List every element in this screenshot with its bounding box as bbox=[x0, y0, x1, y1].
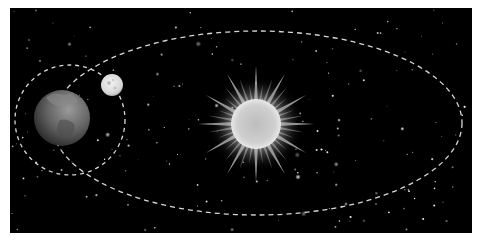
star bbox=[412, 69, 413, 70]
star bbox=[198, 119, 200, 121]
star bbox=[182, 84, 183, 85]
star bbox=[216, 46, 218, 48]
star bbox=[153, 96, 154, 97]
star bbox=[335, 226, 337, 228]
star bbox=[441, 136, 442, 137]
moon-disc bbox=[101, 74, 123, 96]
star bbox=[405, 52, 406, 53]
star bbox=[301, 41, 303, 43]
star bbox=[317, 130, 319, 132]
star bbox=[396, 70, 397, 71]
star bbox=[464, 106, 466, 108]
star bbox=[363, 79, 365, 81]
star bbox=[169, 163, 170, 164]
star bbox=[23, 178, 25, 180]
star bbox=[355, 29, 356, 30]
star bbox=[39, 60, 41, 62]
star bbox=[160, 53, 164, 57]
star bbox=[332, 95, 334, 97]
star bbox=[334, 183, 338, 187]
star bbox=[178, 85, 180, 87]
star bbox=[13, 11, 14, 12]
sun-core bbox=[231, 99, 281, 149]
star bbox=[404, 189, 405, 190]
star bbox=[240, 63, 242, 65]
star bbox=[105, 132, 110, 137]
star bbox=[362, 219, 366, 223]
star bbox=[86, 196, 88, 198]
star bbox=[295, 174, 301, 180]
star bbox=[407, 154, 408, 155]
star bbox=[435, 181, 436, 182]
star bbox=[35, 9, 37, 11]
star bbox=[338, 135, 340, 137]
star bbox=[383, 140, 384, 141]
star bbox=[326, 62, 327, 63]
star bbox=[316, 172, 317, 173]
star bbox=[120, 155, 121, 156]
moon bbox=[101, 74, 123, 96]
star bbox=[294, 169, 296, 171]
star bbox=[387, 21, 389, 23]
star bbox=[189, 119, 190, 120]
star bbox=[442, 23, 443, 24]
star bbox=[24, 195, 25, 196]
star bbox=[350, 216, 352, 218]
star bbox=[442, 202, 443, 203]
star bbox=[337, 127, 339, 129]
star bbox=[79, 95, 80, 96]
star bbox=[359, 69, 363, 73]
star bbox=[434, 188, 436, 190]
star bbox=[155, 72, 159, 76]
star bbox=[350, 221, 351, 222]
star bbox=[25, 113, 26, 114]
star bbox=[190, 12, 191, 13]
star bbox=[205, 158, 206, 159]
star bbox=[154, 227, 156, 229]
star bbox=[212, 53, 214, 55]
star bbox=[375, 191, 379, 195]
star bbox=[256, 181, 258, 183]
star bbox=[348, 83, 349, 84]
star bbox=[17, 229, 19, 231]
star bbox=[164, 127, 165, 128]
star bbox=[74, 36, 75, 37]
star bbox=[433, 205, 435, 207]
star bbox=[16, 143, 17, 144]
star bbox=[328, 73, 329, 74]
star bbox=[231, 58, 234, 61]
star bbox=[41, 170, 42, 171]
star bbox=[339, 220, 341, 222]
star bbox=[267, 180, 268, 181]
star bbox=[387, 106, 388, 107]
star bbox=[344, 202, 348, 206]
star bbox=[147, 104, 149, 106]
star bbox=[61, 169, 63, 171]
star bbox=[175, 27, 177, 29]
star bbox=[127, 204, 129, 206]
star bbox=[431, 158, 433, 160]
star bbox=[421, 36, 422, 37]
star bbox=[316, 149, 318, 151]
star bbox=[87, 99, 88, 100]
star bbox=[332, 48, 334, 50]
star bbox=[211, 38, 212, 39]
star bbox=[125, 170, 126, 171]
star bbox=[26, 47, 28, 49]
star bbox=[432, 54, 433, 55]
star bbox=[200, 27, 201, 28]
star bbox=[197, 184, 199, 186]
star bbox=[456, 43, 458, 45]
star bbox=[89, 26, 91, 28]
star bbox=[325, 150, 326, 151]
star bbox=[329, 208, 330, 209]
star bbox=[388, 211, 390, 213]
star bbox=[148, 129, 150, 131]
star bbox=[396, 28, 398, 30]
star bbox=[188, 128, 190, 130]
star bbox=[320, 148, 322, 150]
star bbox=[433, 10, 434, 11]
star bbox=[230, 227, 234, 231]
star bbox=[27, 132, 28, 133]
star bbox=[173, 85, 175, 87]
